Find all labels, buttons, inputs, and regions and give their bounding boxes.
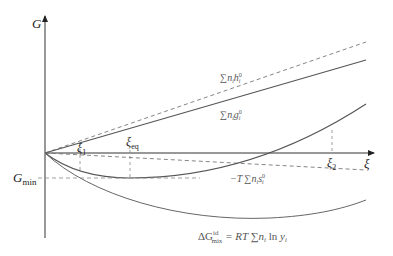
mixing-label: ΔGidmix = RT ∑ni ln yi (198, 229, 287, 245)
enthalpy-line (45, 42, 366, 153)
xi-eq-label: ξeq (126, 135, 139, 151)
xi1-label: ξ1 (77, 141, 86, 157)
gibbs-diagram: G ξ Gmin ξ1 ξeq ξ2 ∑nih0i ∑nig0i −T∑nis0… (0, 0, 393, 256)
x-axis-label: ξ (364, 156, 370, 171)
enthalpy-label: ∑nih0i (220, 72, 242, 84)
entropy-line (45, 153, 366, 170)
gibbs-standard-label: ∑nig0i (220, 109, 242, 121)
mixing-curve (45, 153, 366, 218)
g-min-label: Gmin (13, 170, 37, 187)
y-axis-label: G (32, 16, 42, 31)
xi2-label: ξ2 (327, 156, 336, 172)
gibbs-total-curve (45, 104, 366, 178)
entropy-label: −T∑nis0i (230, 173, 265, 185)
gibbs-standard-line (45, 60, 366, 153)
